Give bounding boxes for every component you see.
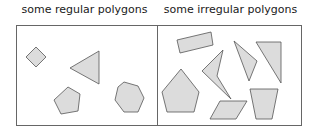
trapezoid <box>250 89 278 119</box>
regular-pentagon <box>54 87 80 114</box>
regular-hexagon <box>115 82 144 112</box>
equilateral-triangle <box>70 51 99 84</box>
parallelogram <box>210 101 247 119</box>
right-triangle <box>256 42 281 83</box>
rectangle <box>177 32 213 53</box>
square <box>26 47 46 67</box>
polygons-diagram <box>0 0 313 131</box>
irregular-pentagon <box>162 69 199 112</box>
kite-triangle <box>234 41 257 81</box>
concave-quadrilateral <box>202 50 231 99</box>
